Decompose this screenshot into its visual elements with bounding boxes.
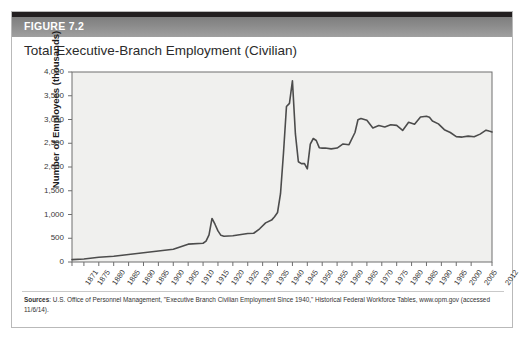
sources-label: Sources xyxy=(24,296,49,303)
x-tick-marks xyxy=(72,262,492,266)
y-tick-marks xyxy=(68,72,72,262)
sources-text: : U.S. Office of Personnel Management, "… xyxy=(24,296,490,313)
figure-card: FIGURE 7.2 Total Executive-Branch Employ… xyxy=(11,11,513,328)
chart-plot-area: Number of Employees (thousands) 05001,00… xyxy=(12,12,514,329)
chart-svg xyxy=(12,12,514,329)
sources-divider xyxy=(22,291,504,292)
sources-note: Sources: U.S. Office of Personnel Manage… xyxy=(24,295,502,315)
